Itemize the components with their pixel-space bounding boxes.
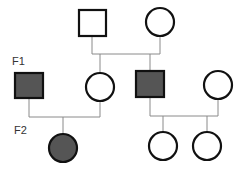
male-unaffected-symbol xyxy=(79,10,106,36)
female-unaffected-symbol xyxy=(193,132,221,160)
female-unaffected-symbol xyxy=(149,132,177,160)
female-unaffected-symbol xyxy=(204,71,232,99)
female-affected-symbol xyxy=(49,134,77,162)
generation-label-f1: F1 xyxy=(12,55,25,67)
pedigree-chart xyxy=(0,0,241,172)
pedigree-lines xyxy=(29,36,218,134)
female-unaffected-symbol xyxy=(86,73,114,101)
generation-label-f2: F2 xyxy=(14,124,27,136)
male-affected-symbol xyxy=(15,73,43,98)
female-unaffected-symbol xyxy=(146,8,174,36)
male-affected-symbol xyxy=(136,71,164,97)
